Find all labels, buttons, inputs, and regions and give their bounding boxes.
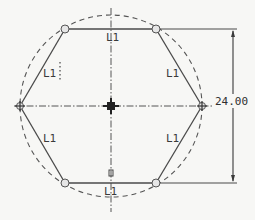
arrow-down-icon xyxy=(231,175,235,182)
origin-icon[interactable] xyxy=(103,98,119,114)
constraint-label-upper-left[interactable]: L1 xyxy=(43,67,56,80)
constraint-label-lower-left[interactable]: L1 xyxy=(43,132,56,145)
constraint-label-lower-right[interactable]: L1 xyxy=(166,132,179,145)
dimension-24[interactable]: 24.00 xyxy=(213,30,249,182)
constraint-label-upper-right[interactable]: L1 xyxy=(166,67,179,80)
constraint-label-bottom[interactable]: L1 xyxy=(104,185,117,198)
vertex-bottom-left[interactable] xyxy=(61,179,69,187)
arrow-up-icon xyxy=(231,30,235,37)
constraint-label-top[interactable]: L1 xyxy=(106,31,119,44)
vertex-top-right[interactable] xyxy=(152,25,160,33)
vertex-bottom-right[interactable] xyxy=(152,179,160,187)
sketch-canvas[interactable]: 24.00 L1 L1 L1 L1 L1 xyxy=(0,0,255,220)
dimension-value[interactable]: 24.00 xyxy=(215,95,248,108)
vertex-top-left[interactable] xyxy=(61,25,69,33)
